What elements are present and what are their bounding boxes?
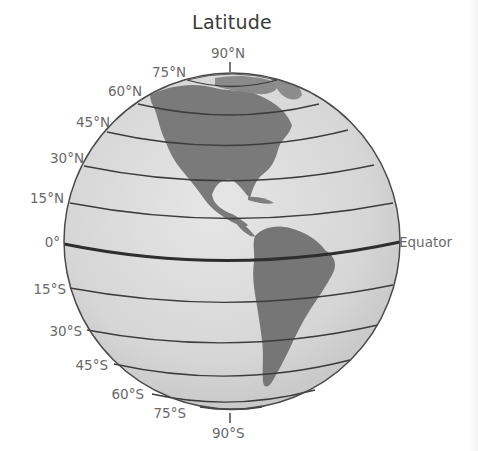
- label-equator-degrees: 0°: [20, 236, 60, 250]
- label-90n: 90°N: [211, 47, 245, 61]
- label-45s: 45°S: [60, 359, 108, 373]
- label-15n: 15°N: [18, 192, 64, 206]
- label-15s: 15°S: [18, 283, 66, 297]
- label-45n: 45°N: [64, 116, 110, 130]
- label-30n: 30°N: [38, 152, 84, 166]
- label-60n: 60°N: [100, 85, 142, 99]
- label-75s: 75°S: [138, 407, 186, 421]
- page-edge-shadow: [468, 0, 478, 451]
- label-60s: 60°S: [96, 388, 144, 402]
- label-90s: 90°S: [212, 427, 245, 441]
- label-75n: 75°N: [148, 66, 186, 80]
- label-30s: 30°S: [34, 325, 82, 339]
- globe: [0, 0, 478, 451]
- label-equator: Equator: [399, 236, 452, 250]
